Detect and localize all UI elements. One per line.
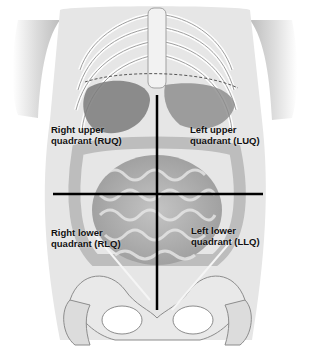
abdominal-quadrants-diagram: Right upper quadrant (RUQ) Left upper qu… <box>0 0 310 357</box>
label-llq: Left lower quadrant (LLQ) <box>191 225 260 247</box>
label-ruq-line2: quadrant (RUQ) <box>51 135 122 146</box>
label-luq-line2: quadrant (LUQ) <box>190 135 260 146</box>
label-llq-line1: Left lower <box>191 225 260 236</box>
label-llq-line2: quadrant (LLQ) <box>191 236 260 247</box>
label-rlq-line1: Right lower <box>51 227 121 238</box>
sternum <box>148 8 166 88</box>
label-luq: Left upper quadrant (LUQ) <box>190 124 260 146</box>
label-rlq: Right lower quadrant (RLQ) <box>51 227 121 249</box>
label-ruq: Right upper quadrant (RUQ) <box>51 124 122 146</box>
label-luq-line1: Left upper <box>190 124 260 135</box>
anatomy-illustration <box>0 0 310 357</box>
label-ruq-line1: Right upper <box>51 124 122 135</box>
label-rlq-line2: quadrant (RLQ) <box>51 238 121 249</box>
